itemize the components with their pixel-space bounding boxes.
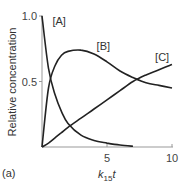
curve-c <box>42 65 172 148</box>
y-tick-label-0: 0.5 <box>22 76 37 88</box>
y-tick-label-1: 1.0 <box>22 10 37 22</box>
x-tick-label-0: 5 <box>104 152 110 164</box>
x-axis-title: k15t <box>98 168 116 183</box>
curve-labels: [A][B][C] <box>52 15 169 62</box>
y-axis-title: Relative concentration <box>6 28 18 137</box>
panel-label: (a) <box>2 167 15 179</box>
curve-label-a: [A] <box>52 15 65 27</box>
curve-label-b: [B] <box>97 40 110 52</box>
curve-label-c: [C] <box>155 51 169 63</box>
curve-a <box>42 16 133 146</box>
x-axis <box>42 144 173 147</box>
x-axis-title-tail: t <box>112 168 116 180</box>
curves <box>42 16 172 147</box>
x-tick-label-1: 10 <box>166 152 178 164</box>
kinetics-chart: 1.0 0.5 5 10 Relative concentration k15t… <box>0 0 187 183</box>
y-axis <box>39 15 42 147</box>
